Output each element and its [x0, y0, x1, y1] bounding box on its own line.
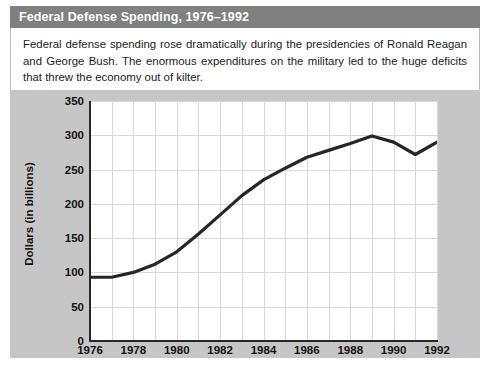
plot-area [90, 101, 437, 341]
y-axis-tick-label: 250 [44, 164, 84, 176]
x-axis-tick-label: 1986 [284, 344, 330, 356]
gridline-vertical [437, 101, 438, 341]
y-axis-tick-label: 300 [44, 129, 84, 141]
y-axis-title: Dollars (in billions) [23, 154, 35, 274]
x-axis-tick-label: 1988 [327, 344, 373, 356]
figure-title-bar: Federal Defense Spending, 1976–1992 [10, 6, 480, 28]
x-axis-tick-label: 1992 [414, 344, 460, 356]
y-axis-tick-labels: 050100150200250300350 [36, 90, 84, 358]
line-series-chart [90, 101, 437, 341]
x-axis-tick-label: 1982 [197, 344, 243, 356]
chart-panel: 050100150200250300350 197619781980198219… [10, 90, 480, 358]
figure-title: Federal Defense Spending, 1976–1992 [10, 10, 249, 24]
figure-caption-box: Federal defense spending rose dramatical… [10, 28, 480, 90]
figure-container: Federal Defense Spending, 1976–1992 Fede… [10, 6, 480, 358]
x-axis-tick-label: 1978 [110, 344, 156, 356]
y-axis-line [89, 101, 91, 342]
x-axis-tick-label: 1980 [154, 344, 200, 356]
x-axis-tick-label: 1990 [371, 344, 417, 356]
x-axis-tick-label: 1984 [241, 344, 287, 356]
y-axis-tick-label: 150 [44, 232, 84, 244]
x-axis-line [89, 340, 438, 342]
y-axis-tick-label: 350 [44, 95, 84, 107]
y-axis-tick-label: 50 [44, 301, 84, 313]
data-line-federal-defense-spending [90, 136, 437, 277]
figure-caption: Federal defense spending rose dramatical… [23, 36, 467, 86]
y-axis-tick-label: 100 [44, 266, 84, 278]
x-axis-tick-label: 1976 [67, 344, 113, 356]
y-axis-tick-label: 200 [44, 198, 84, 210]
